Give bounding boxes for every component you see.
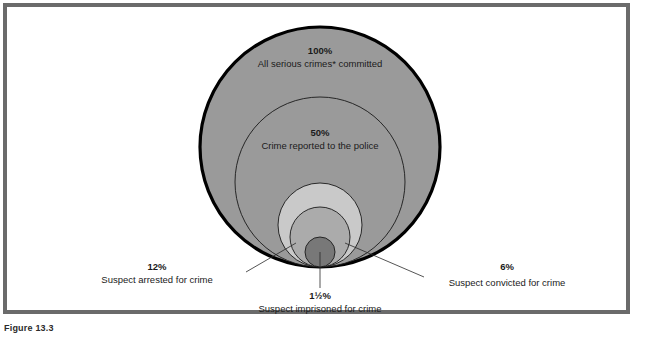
- figure-caption: Figure 13.3: [4, 322, 54, 338]
- label-text-crime-reported: Crime reported to the police: [261, 140, 378, 151]
- label-text-suspect-convicted: Suspect convicted for crime: [449, 277, 566, 288]
- label-percent-crime-reported: 50%: [310, 127, 330, 138]
- label-text-all-crimes: All serious crimes* committed: [258, 58, 383, 69]
- label-percent-suspect-imprisoned: 1½%: [309, 290, 331, 301]
- label-percent-all-crimes: 100%: [308, 45, 333, 56]
- crime-funnel-diagram: 100% All serious crimes* committed 50% C…: [0, 0, 646, 338]
- figure-page: 100% All serious crimes* committed 50% C…: [0, 0, 646, 338]
- label-text-suspect-imprisoned: Suspect imprisoned for crime: [258, 303, 381, 314]
- label-percent-suspect-arrested: 12%: [147, 261, 167, 272]
- label-text-suspect-arrested: Suspect arrested for crime: [101, 274, 212, 285]
- label-percent-suspect-convicted: 6%: [500, 261, 514, 272]
